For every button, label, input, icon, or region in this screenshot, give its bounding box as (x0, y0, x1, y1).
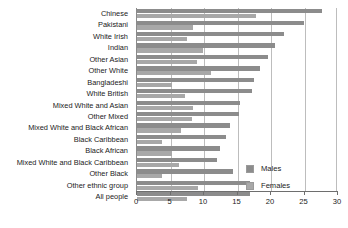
bar-males (137, 112, 239, 116)
bar-group (137, 8, 336, 19)
x-tick-label: 20 (266, 197, 274, 206)
bar-females (137, 94, 185, 98)
legend-swatch-males (246, 165, 254, 173)
bar-group (137, 65, 336, 76)
category-label: Bangladeshi (0, 77, 132, 88)
bar-females (137, 25, 193, 29)
category-label: Other Black (0, 168, 132, 179)
bar-females (137, 128, 181, 132)
category-label: Chinese (0, 8, 132, 19)
bar-males (137, 66, 260, 70)
bar-females (137, 174, 162, 178)
bar-group (137, 77, 336, 88)
chart-legend: Males Females (246, 160, 316, 194)
x-tick-label: 25 (299, 197, 307, 206)
category-label: Mixed White and Black African (0, 122, 132, 133)
legend-swatch-females (246, 182, 254, 190)
bar-group (137, 134, 336, 145)
bar-group (137, 42, 336, 53)
x-tick (203, 191, 204, 195)
legend-item-females: Females (246, 177, 316, 194)
bar-males (137, 78, 254, 82)
bar-males (137, 32, 284, 36)
category-label: White British (0, 88, 132, 99)
x-tick (237, 191, 238, 195)
x-tick (170, 191, 171, 195)
bar-chart: ChinesePakistaniWhite IrishIndianOther A… (0, 0, 348, 228)
bar-group (137, 54, 336, 65)
bar-males (137, 169, 233, 173)
x-tick (337, 191, 338, 195)
category-label: Pakistani (0, 19, 132, 30)
bar-males (137, 43, 275, 47)
bar-males (137, 135, 226, 139)
x-tick-label: 5 (167, 197, 171, 206)
bar-group (137, 145, 336, 156)
category-label: Other ethnic group (0, 180, 132, 191)
category-label: Black African (0, 145, 132, 156)
bar-males (137, 146, 220, 150)
bar-males (137, 181, 250, 185)
legend-label-females: Females (261, 181, 290, 190)
category-label: Mixed White and Asian (0, 100, 132, 111)
bar-females (137, 140, 162, 144)
legend-item-males: Males (246, 160, 316, 177)
category-label: Other Mixed (0, 111, 132, 122)
bar-males (137, 9, 322, 13)
bar-group (137, 19, 336, 30)
bar-females (137, 48, 203, 52)
bar-females (137, 37, 187, 41)
category-label: Black Caribbean (0, 134, 132, 145)
bar-males (137, 21, 304, 25)
bar-females (137, 14, 256, 18)
bar-group (137, 122, 336, 133)
bar-males (137, 123, 230, 127)
bar-group (137, 100, 336, 111)
x-tick-label: 10 (199, 197, 207, 206)
bar-females (137, 71, 211, 75)
category-label: Indian (0, 42, 132, 53)
bar-males (137, 192, 250, 196)
bar-males (137, 158, 217, 162)
bar-group (137, 111, 336, 122)
category-label: White Irish (0, 31, 132, 42)
x-tick-label: 15 (232, 197, 240, 206)
bar-females (137, 151, 172, 155)
bar-females (137, 197, 187, 201)
bar-females (137, 83, 172, 87)
bar-females (137, 106, 193, 110)
category-label: All people (0, 191, 132, 202)
legend-label-males: Males (261, 164, 281, 173)
bar-group (137, 88, 336, 99)
x-tick-label: 30 (333, 197, 341, 206)
x-tick (136, 191, 137, 195)
bar-males (137, 55, 268, 59)
x-tick (304, 191, 305, 195)
bar-males (137, 89, 252, 93)
bar-females (137, 163, 179, 167)
bar-females (137, 60, 197, 64)
category-label: Other Asian (0, 54, 132, 65)
category-label: Other White (0, 65, 132, 76)
bar-males (137, 101, 240, 105)
bar-group (137, 31, 336, 42)
x-tick-label: 0 (134, 197, 138, 206)
x-tick (270, 191, 271, 195)
bar-females (137, 117, 192, 121)
category-label: Mixed White and Black Caribbean (0, 157, 132, 168)
category-axis-labels: ChinesePakistaniWhite IrishIndianOther A… (0, 8, 132, 202)
bar-females (137, 186, 198, 190)
